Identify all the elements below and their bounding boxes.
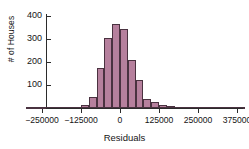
x-tick-label: 250000	[184, 115, 213, 125]
histogram-bar	[136, 80, 144, 108]
histogram-bar	[97, 68, 105, 108]
x-tick-label: −125000	[64, 115, 98, 125]
x-tick-label: −250000	[25, 115, 59, 125]
x-tick-label: 375000	[223, 115, 249, 125]
histogram-bar	[26, 107, 34, 109]
x-tick-label: 0	[118, 115, 123, 125]
histogram-bar	[89, 97, 97, 108]
histogram-chart: 100200300400−250000−12500001250002500003…	[0, 0, 249, 149]
y-tick	[47, 85, 51, 86]
y-tick	[47, 16, 51, 17]
y-tick	[47, 39, 51, 40]
histogram-bar	[112, 24, 120, 108]
x-axis-line	[46, 108, 243, 109]
histogram-bar	[143, 99, 151, 108]
histogram-bar	[120, 29, 128, 108]
y-axis-line	[46, 14, 47, 108]
x-tick	[159, 109, 160, 113]
histogram-bar	[104, 38, 112, 108]
histogram-bar	[128, 60, 136, 108]
x-tick	[42, 109, 43, 113]
plot-area: 100200300400−250000−12500001250002500003…	[0, 0, 249, 149]
x-axis-title: Residuals	[0, 132, 249, 143]
x-tick-label: 125000	[145, 115, 174, 125]
x-tick	[237, 109, 238, 113]
y-axis-title: # of Houses	[6, 6, 16, 72]
y-tick	[47, 62, 51, 63]
histogram-bar	[34, 107, 42, 109]
x-tick	[120, 109, 121, 113]
x-tick	[198, 109, 199, 113]
y-tick-label: 100	[10, 79, 42, 89]
x-tick	[81, 109, 82, 113]
